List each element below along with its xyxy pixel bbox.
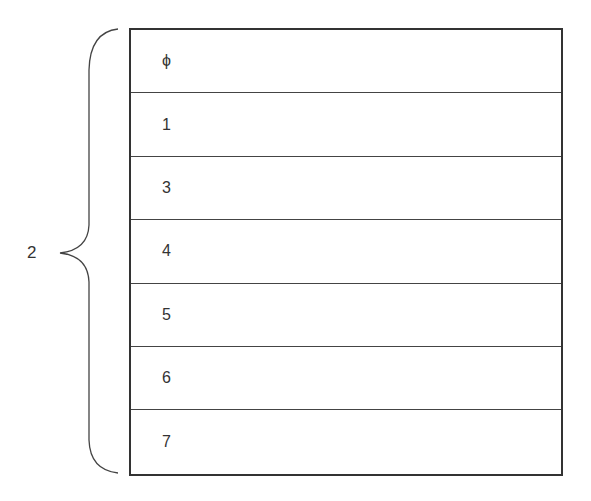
stack-row: 3 — [131, 157, 561, 220]
row-label: 4 — [162, 242, 171, 260]
row-label: 3 — [162, 179, 171, 197]
row-label: 5 — [162, 306, 171, 324]
stack-row: 7 — [131, 410, 561, 473]
brace-label: 2 — [27, 243, 36, 263]
stack-row: 1 — [131, 93, 561, 156]
stack-row: 4 — [131, 220, 561, 283]
row-label: 7 — [162, 433, 171, 451]
row-label: 1 — [162, 116, 171, 134]
stack-row: 5 — [131, 284, 561, 347]
row-label: 6 — [162, 369, 171, 387]
stack-row: ϕ — [131, 30, 561, 93]
stack-box: ϕ 1 3 4 5 6 7 — [129, 28, 563, 476]
stack-row: 6 — [131, 347, 561, 410]
row-label: ϕ — [162, 52, 171, 70]
